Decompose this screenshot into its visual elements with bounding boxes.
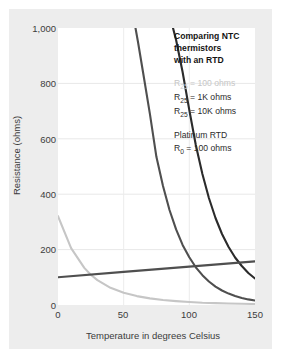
y-tick-1000: 1,000 [10, 24, 56, 34]
legend-entry-ntc-10k-sub: 25 [180, 111, 187, 118]
x-tick-100: 100 [169, 310, 209, 320]
curve-rtd [58, 261, 255, 277]
y-axis-label: Resistance (ohms) [11, 96, 22, 216]
legend-entry-ntc-1k-rest: = 1K ohms [188, 92, 232, 102]
legend-title-line-2: thermistors [174, 42, 266, 54]
legend-title: Comparing NTC thermistors with an RTD [174, 30, 266, 67]
chart-figure: 1,000 800 600 400 200 0 0 50 100 150 Res… [0, 0, 281, 362]
legend-entry-ntc-1k: R25 = 1K ohms [174, 91, 266, 105]
legend-entry-ntc-10k: R25 = 10K ohms [174, 105, 266, 119]
legend-entry-ntc-100: R25 = 100 ohms [174, 77, 266, 91]
y-tick-200: 200 [10, 245, 56, 255]
legend-entry-ntc-100-sub: 25 [180, 82, 187, 89]
curve-ntc-100 [58, 216, 255, 304]
legend-entry-ntc-10k-rest: = 10K ohms [188, 106, 237, 116]
x-tick-50: 50 [103, 310, 143, 320]
legend-title-line-1: Comparing NTC [174, 30, 266, 42]
y-tick-800: 800 [10, 79, 56, 89]
legend-spacer [174, 119, 266, 129]
chart-legend: Comparing NTC thermistors with an RTD R2… [174, 30, 266, 156]
legend-entry-rtd-value: R0 = 100 ohms [174, 142, 266, 156]
legend-title-line-3: with an RTD [174, 54, 266, 66]
x-tick-0: 0 [38, 310, 78, 320]
x-axis-label: Temperature in degrees Celsius [38, 330, 268, 341]
x-axis-ticks: 0 50 100 150 [0, 310, 281, 326]
legend-entry-ntc-100-rest: = 100 ohms [188, 78, 236, 88]
x-tick-150: 150 [235, 310, 275, 320]
legend-entry-rtd-rest: = 100 ohms [184, 143, 232, 153]
legend-entry-ntc-1k-sub: 25 [180, 97, 187, 104]
legend-entry-rtd-name: Platinum RTD [174, 129, 266, 141]
